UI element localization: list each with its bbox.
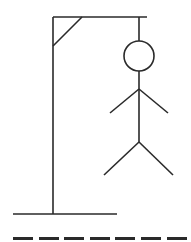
letter-slot <box>90 237 110 240</box>
letter-slot <box>167 237 187 240</box>
letter-slot <box>64 237 84 240</box>
letter-slot <box>39 237 59 240</box>
word-slots <box>0 0 191 242</box>
letter-slot <box>141 237 161 240</box>
letter-slot <box>115 237 135 240</box>
letter-slot <box>13 237 33 240</box>
